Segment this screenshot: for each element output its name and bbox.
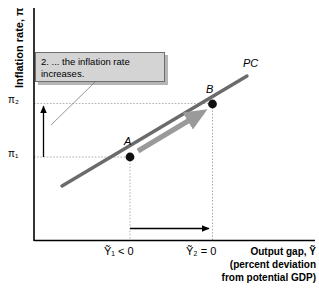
point-b-label: B [206, 84, 213, 96]
curve-label-pc: PC [243, 58, 258, 70]
phillips-curve-line [62, 76, 247, 186]
data-point-b [208, 100, 217, 109]
x-axis-caption-line3: from potential GDP) [168, 271, 316, 284]
y-axis-title: Inflation rate, π [14, 0, 26, 103]
x-tick-label-y1: Ỹ₁ < 0 [104, 246, 134, 258]
x-axis-caption-line1: Output gap, Ỹ [168, 245, 316, 258]
x-axis-caption: Output gap, Ỹ (percent deviation from po… [168, 245, 316, 284]
point-a-label: A [124, 136, 131, 148]
y-tick-label-pi1: π₁ [8, 149, 18, 160]
x-axis-caption-line2: (percent deviation [168, 258, 316, 271]
data-point-a [126, 153, 135, 162]
callout-text: 2. ... the inflation rate increases. [41, 56, 165, 80]
phillips-curve-figure: Inflation rate, π 2. ... the inflation r… [0, 0, 319, 290]
movement-arrow-a-to-b [138, 112, 203, 151]
y-tick-label-pi2: π₂ [8, 95, 19, 106]
callout-box: 2. ... the inflation rate increases. [35, 52, 165, 82]
